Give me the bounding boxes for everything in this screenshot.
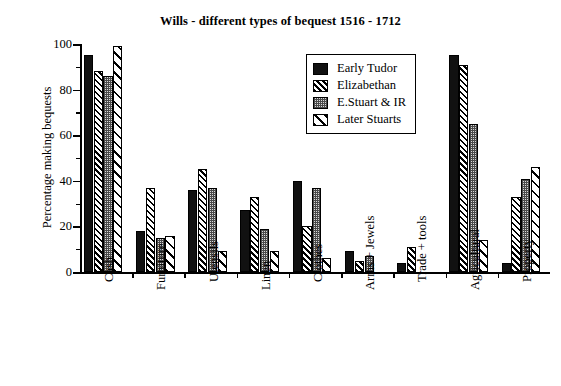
x-tick: [446, 272, 448, 278]
bar: [188, 190, 197, 272]
x-category-label: Trade + tools: [416, 216, 429, 282]
x-category-label: Arms + Jewels: [364, 216, 377, 290]
legend-label: Early Tudor: [337, 62, 397, 75]
bar: [113, 46, 122, 272]
y-tick-label: 80: [42, 84, 72, 97]
y-tick-major: [73, 226, 80, 228]
bar: [103, 76, 112, 272]
x-category-label: Linen: [260, 261, 273, 290]
bar-group: [136, 44, 175, 272]
x-tick: [341, 272, 343, 278]
x-category-label: Utensils: [208, 241, 221, 282]
y-tick-minor: [76, 112, 80, 113]
x-category-label: Agricultural: [469, 229, 482, 290]
bar-group: [188, 44, 227, 272]
bar: [397, 263, 406, 272]
x-tick: [132, 272, 134, 278]
legend-swatch-icon: [313, 80, 328, 92]
bar-group: [502, 44, 541, 272]
x-category-label: Furniture: [155, 243, 168, 290]
bar-group: [84, 44, 123, 272]
legend-swatch-icon: [313, 97, 328, 109]
x-category-label: Clothes: [312, 244, 325, 282]
y-tick-minor: [76, 158, 80, 159]
bar: [293, 181, 302, 272]
legend-swatch-icon: [313, 114, 328, 126]
x-tick: [184, 272, 186, 278]
y-tick-label: 100: [42, 38, 72, 51]
legend-item: Early Tudor: [313, 60, 406, 77]
x-tick: [289, 272, 291, 278]
y-tick-major: [73, 135, 80, 137]
y-tick-minor: [76, 67, 80, 68]
y-tick-major: [73, 181, 80, 183]
legend: Early TudorElizabethanE.Stuart & IRLater…: [306, 54, 416, 134]
bar: [240, 210, 249, 272]
y-tick-major: [73, 272, 80, 274]
bar: [459, 65, 468, 272]
legend-item: Later Stuarts: [313, 111, 406, 128]
x-tick: [498, 272, 500, 278]
bar: [94, 71, 103, 272]
bar-group: [240, 44, 279, 272]
y-tick-label: 20: [42, 220, 72, 233]
bar: [136, 231, 145, 272]
y-tick-label: 40: [42, 175, 72, 188]
bar: [502, 263, 511, 272]
x-tick: [393, 272, 395, 278]
legend-item: E.Stuart & IR: [313, 94, 406, 111]
y-tick-minor: [76, 204, 80, 205]
chart-title: Wills - different types of bequest 1516 …: [0, 14, 561, 29]
y-axis-line: [80, 44, 82, 272]
legend-label: Later Stuarts: [337, 113, 401, 126]
legend-item: Elizabethan: [313, 77, 406, 94]
y-tick-label: 60: [42, 129, 72, 142]
legend-label: E.Stuart & IR: [337, 96, 406, 109]
y-tick-major: [73, 90, 80, 92]
x-category-label: Property: [521, 239, 534, 282]
x-category-label: Cash: [103, 257, 116, 282]
chart-page: Wills - different types of bequest 1516 …: [0, 0, 561, 386]
y-axis-label: Percentage making bequests: [40, 48, 55, 268]
legend-swatch-icon: [313, 63, 328, 75]
bar: [345, 251, 354, 272]
legend-label: Elizabethan: [337, 79, 396, 92]
x-tick: [237, 272, 239, 278]
bar: [84, 55, 93, 272]
y-tick-label: 0: [42, 266, 72, 279]
bar: [449, 55, 458, 272]
bar: [198, 169, 207, 272]
y-tick-minor: [76, 249, 80, 250]
y-tick-major: [73, 44, 80, 46]
